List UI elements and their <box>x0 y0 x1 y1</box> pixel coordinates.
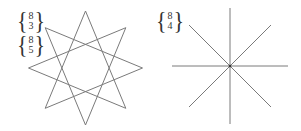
center-dot <box>229 65 232 68</box>
octagram-8-3 <box>29 11 143 125</box>
label-8-5: { 85 } <box>17 34 45 56</box>
label-8-3: { 83 } <box>17 10 45 32</box>
left-brace: { <box>156 9 167 33</box>
left-brace: { <box>17 33 28 57</box>
figure-canvas <box>0 0 301 131</box>
right-brace: } <box>174 9 185 33</box>
right-brace: } <box>35 9 46 33</box>
right-brace: } <box>35 33 46 57</box>
label-8-4: { 84 } <box>156 10 184 32</box>
left-brace: { <box>17 9 28 33</box>
